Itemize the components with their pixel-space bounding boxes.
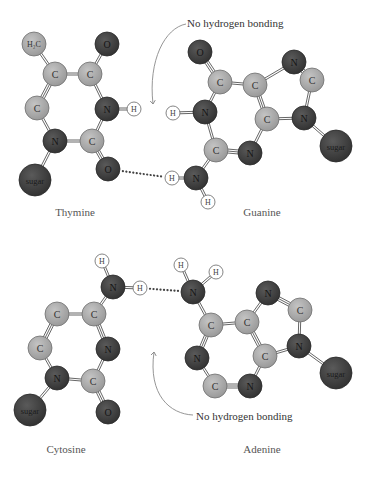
hydrogen-bond-dots — [123, 171, 162, 177]
atom-label: C — [309, 75, 316, 86]
atom-carbon-c: C — [43, 62, 67, 86]
atom-nitrogen-n: N — [43, 129, 67, 153]
atom-label: N — [201, 107, 208, 118]
atom-carbon-hc: H₂C — [22, 32, 46, 56]
atom-nitrogen-n: N — [45, 366, 69, 390]
atom-label: O — [196, 47, 203, 58]
atom-label: sugar — [327, 142, 346, 152]
atom-label: sugar — [327, 369, 346, 379]
atom-label: C — [34, 103, 41, 114]
atom-hydrogen-h: H — [201, 195, 215, 209]
atom-carbon-c: C — [25, 96, 49, 120]
atom-oxygen-o: O — [96, 157, 120, 181]
atom-label: N — [295, 341, 302, 352]
atom-carbon-c: C — [82, 302, 106, 326]
atom-nitrogen-n: N — [181, 280, 205, 304]
atom-carbon-c: C — [243, 73, 267, 97]
atom-hydrogen-h: H — [174, 258, 188, 272]
atom-carbon-c: C — [45, 302, 69, 326]
atom-label: N — [51, 136, 58, 147]
atom-label: N — [104, 344, 111, 355]
atom-carbon-c: C — [235, 310, 259, 334]
atom-carbon-c: C — [80, 129, 104, 153]
atom-nitrogen-n: N — [185, 346, 209, 370]
atom-nitrogen-n: N — [282, 50, 306, 74]
atom-label: H — [170, 109, 176, 118]
atom-carbon-c: C — [78, 62, 102, 86]
atom-label: H — [205, 198, 211, 207]
atom-nitrogen-n: N — [193, 100, 217, 124]
adenine-caption: Adenine — [243, 443, 280, 455]
atom-label: N — [300, 113, 307, 124]
atom-label: H₂C — [27, 40, 41, 49]
atom-label: sugar — [21, 406, 40, 416]
atom-label: C — [52, 69, 59, 80]
atom-label: H — [137, 284, 143, 293]
atom-label: C — [37, 343, 44, 354]
bonds-layer — [29, 43, 336, 412]
atom-carbon-c: C — [28, 336, 52, 360]
hydrogen-bonds-layer — [123, 171, 178, 291]
atom-nitrogen-n: N — [287, 334, 311, 358]
guanine-caption: Guanine — [243, 206, 280, 218]
atom-label: C — [217, 77, 224, 88]
atom-label: C — [264, 114, 271, 125]
atom-carbon-c: C — [253, 344, 277, 368]
atom-nitrogen-n: N — [238, 374, 262, 398]
atom-label: C — [208, 320, 215, 331]
atom-carbon-c: C — [288, 298, 312, 322]
atom-label: N — [290, 57, 297, 68]
atom-nitrogen-n: N — [256, 281, 280, 305]
atom-label: N — [246, 148, 253, 159]
atom-hydrogen-h: H — [166, 106, 180, 120]
atom-sugar: sugar — [320, 130, 352, 162]
atom-label: O — [104, 164, 111, 175]
atom-carbon-c: C — [255, 107, 279, 131]
atom-nitrogen-n: N — [101, 275, 125, 299]
molecule-canvas: H₂COCCCNHNCsugarOOCCNCHNCNCNsugarHNHHNHC… — [0, 0, 373, 482]
atoms-layer: H₂COCCCNHNCsugarOOCCNCHNCNCNsugarHNHHNHC… — [14, 32, 352, 426]
atom-hydrogen-h: H — [127, 102, 141, 116]
atom-label: C — [87, 69, 94, 80]
atom-label: sugar — [26, 176, 45, 186]
atom-label: N — [189, 287, 196, 298]
atom-carbon-c: C — [208, 70, 232, 94]
atom-oxygen-o: O — [95, 32, 119, 56]
atom-label: C — [54, 309, 61, 320]
atom-carbon-c: C — [81, 369, 105, 393]
atom-hydrogen-h: H — [165, 171, 179, 185]
thymine-caption: Thymine — [55, 206, 95, 218]
atom-sugar: sugar — [320, 357, 352, 389]
atom-hydrogen-h: H — [209, 265, 223, 279]
atom-label: H — [131, 105, 137, 114]
atom-label: O — [104, 407, 111, 418]
top-note-label: No hydrogen bonding — [187, 17, 284, 29]
atom-label: N — [192, 173, 199, 184]
atom-label: C — [89, 136, 96, 147]
atom-oxygen-o: O — [188, 40, 212, 64]
atom-hydrogen-h: H — [133, 281, 147, 295]
atom-label: C — [213, 145, 220, 156]
atom-label: H — [99, 257, 105, 266]
atom-sugar: sugar — [19, 164, 51, 196]
atom-label: N — [53, 373, 60, 384]
top-note-arrow-icon — [152, 24, 186, 104]
atom-label: N — [264, 288, 271, 299]
atom-label: H — [169, 174, 175, 183]
atom-oxygen-o: O — [96, 400, 120, 424]
atom-label: N — [103, 104, 110, 115]
atom-hydrogen-h: H — [95, 254, 109, 268]
atom-carbon-c: C — [204, 138, 228, 162]
atom-label: O — [103, 39, 110, 50]
atom-label: C — [244, 317, 251, 328]
atom-nitrogen-n: N — [184, 166, 208, 190]
atom-carbon-c: C — [300, 68, 324, 92]
atom-carbon-c: C — [199, 313, 223, 337]
atom-nitrogen-n: N — [238, 141, 262, 165]
atom-label: C — [252, 80, 259, 91]
bottom-note-label: No hydrogen bonding — [196, 410, 293, 422]
atom-sugar: sugar — [14, 394, 46, 426]
atom-nitrogen-n: N — [292, 106, 316, 130]
atom-label: C — [91, 309, 98, 320]
atom-carbon-c: C — [203, 374, 227, 398]
